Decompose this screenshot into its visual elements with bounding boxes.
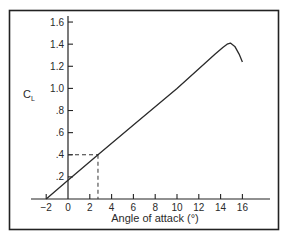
y-tick-label: .6 — [56, 127, 65, 138]
y-tick-label: .8 — [56, 105, 65, 116]
y-tick-label: .4 — [56, 149, 65, 160]
y-axis-title-main: C — [23, 88, 31, 100]
y-tick-label: .2 — [56, 171, 65, 182]
x-tick-label: 2 — [87, 202, 93, 213]
lift-curve-line — [46, 43, 242, 199]
x-axis-title: Angle of attack (°) — [111, 212, 199, 224]
x-tick-label: −2 — [40, 202, 52, 213]
lift-curve-chart: −20246810121416.2.4.6.81.01.21.41.6 C L … — [0, 0, 289, 238]
x-tick-label: 14 — [215, 202, 227, 213]
x-tick-label: 16 — [237, 202, 249, 213]
y-tick-label: 1.2 — [50, 61, 64, 72]
y-axis-title-subscript: L — [31, 95, 35, 102]
y-tick-label: 1.6 — [50, 17, 64, 28]
y-tick-label: 1.0 — [50, 83, 64, 94]
y-axis-title: C L — [23, 88, 35, 102]
x-tick-label: 0 — [65, 202, 71, 213]
series-line — [46, 43, 242, 199]
y-tick-label: 1.4 — [50, 39, 64, 50]
